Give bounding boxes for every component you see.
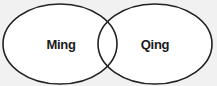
qing-label: Qing: [141, 37, 170, 52]
ming-label: Ming: [46, 37, 75, 52]
venn-svg: Ming Qing: [0, 0, 217, 86]
venn-diagram: Ming Qing: [0, 0, 217, 86]
